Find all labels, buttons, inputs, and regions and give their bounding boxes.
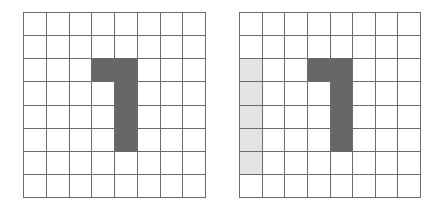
grid-cell bbox=[263, 106, 286, 129]
grid-cell bbox=[138, 36, 161, 59]
grid-cell bbox=[183, 152, 206, 175]
grid-cell bbox=[331, 13, 354, 36]
grid-cell bbox=[115, 152, 138, 175]
grid-cell bbox=[376, 106, 399, 129]
grid-cell bbox=[285, 36, 308, 59]
grid-cell bbox=[115, 175, 138, 198]
grid-cell bbox=[161, 36, 184, 59]
grid-cell bbox=[70, 36, 93, 59]
grid-cell bbox=[24, 106, 47, 129]
grid-cell bbox=[376, 152, 399, 175]
grid-cell bbox=[308, 129, 331, 152]
grid-cell bbox=[161, 82, 184, 105]
grid-cell bbox=[47, 82, 70, 105]
grid-cell bbox=[285, 152, 308, 175]
grid-cell bbox=[24, 13, 47, 36]
grid-cell bbox=[70, 13, 93, 36]
grid-cell bbox=[240, 175, 263, 198]
grid-cell bbox=[115, 59, 138, 82]
grid-cell bbox=[398, 13, 421, 36]
grid-cell bbox=[161, 175, 184, 198]
grid-cell bbox=[47, 106, 70, 129]
grid-cell bbox=[240, 59, 263, 82]
grid-cell bbox=[70, 129, 93, 152]
grid-cell bbox=[353, 129, 376, 152]
grid-cell bbox=[47, 13, 70, 36]
grid-cell bbox=[353, 36, 376, 59]
grid-cell bbox=[47, 175, 70, 198]
grid-cell bbox=[263, 129, 286, 152]
grid-cell bbox=[376, 175, 399, 198]
grid-cell bbox=[70, 152, 93, 175]
grid-cell bbox=[92, 129, 115, 152]
grid-cell bbox=[138, 152, 161, 175]
grid-cell bbox=[183, 129, 206, 152]
grid-cell bbox=[308, 175, 331, 198]
grid-cell bbox=[331, 175, 354, 198]
grid-cell bbox=[263, 175, 286, 198]
grid-cell bbox=[376, 82, 399, 105]
grid-cell bbox=[47, 36, 70, 59]
grid-cell bbox=[398, 152, 421, 175]
grid-cell bbox=[308, 59, 331, 82]
grid-cell bbox=[115, 129, 138, 152]
grid-cell bbox=[353, 13, 376, 36]
grid-cell bbox=[263, 59, 286, 82]
grid-cell bbox=[24, 129, 47, 152]
grid-cell bbox=[183, 13, 206, 36]
grid-cell bbox=[138, 59, 161, 82]
grid-cell bbox=[183, 82, 206, 105]
grid-cell bbox=[115, 36, 138, 59]
grid-cell bbox=[308, 82, 331, 105]
grid-cell bbox=[138, 13, 161, 36]
grid-cell bbox=[285, 82, 308, 105]
grid-cell bbox=[331, 59, 354, 82]
grid-cell bbox=[398, 129, 421, 152]
grid-cell bbox=[285, 175, 308, 198]
grid-cell bbox=[308, 106, 331, 129]
grid-cell bbox=[138, 175, 161, 198]
grid-cell bbox=[308, 36, 331, 59]
grid-cell bbox=[331, 106, 354, 129]
grid-cell bbox=[183, 175, 206, 198]
grid-cell bbox=[161, 129, 184, 152]
grid-cell bbox=[398, 59, 421, 82]
grid-cell bbox=[47, 59, 70, 82]
grid-cell bbox=[353, 152, 376, 175]
grid-cell bbox=[92, 36, 115, 59]
grid-cell bbox=[398, 36, 421, 59]
grid-cell bbox=[183, 106, 206, 129]
grid-cell bbox=[24, 152, 47, 175]
grid-cell bbox=[70, 59, 93, 82]
grid-cell bbox=[240, 13, 263, 36]
grid-cell bbox=[376, 129, 399, 152]
grid-cell bbox=[240, 152, 263, 175]
grid-cell bbox=[92, 106, 115, 129]
grid-cell bbox=[376, 59, 399, 82]
grid-cell bbox=[115, 106, 138, 129]
grid-cell bbox=[240, 106, 263, 129]
grid-cell bbox=[70, 106, 93, 129]
grid-cell bbox=[138, 82, 161, 105]
grid-cell bbox=[161, 59, 184, 82]
grid-cell bbox=[24, 59, 47, 82]
grid-cell bbox=[47, 129, 70, 152]
grid-right bbox=[239, 12, 421, 198]
grid-cell bbox=[183, 36, 206, 59]
grid-cell bbox=[331, 36, 354, 59]
grid-cell bbox=[285, 59, 308, 82]
grid-cell bbox=[70, 175, 93, 198]
grid-cell bbox=[285, 13, 308, 36]
grid-cell bbox=[92, 175, 115, 198]
grid-cell bbox=[353, 175, 376, 198]
grid-cell bbox=[398, 82, 421, 105]
grid-cell bbox=[115, 13, 138, 36]
grid-cell bbox=[92, 59, 115, 82]
grid-cell bbox=[353, 82, 376, 105]
grid-cell bbox=[92, 82, 115, 105]
grid-cell bbox=[331, 152, 354, 175]
grid-left bbox=[23, 12, 206, 198]
grid-cell bbox=[161, 106, 184, 129]
grid-cell bbox=[47, 152, 70, 175]
grid-cell bbox=[70, 82, 93, 105]
